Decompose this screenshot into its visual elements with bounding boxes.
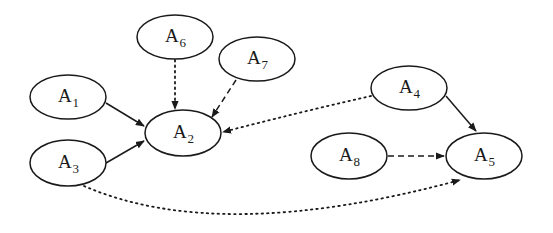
node-label-base: A — [173, 121, 187, 142]
node-label-subscript: 4 — [414, 86, 421, 101]
node-label-base: A — [58, 85, 72, 106]
node-a2: A2 — [145, 110, 221, 156]
node-label-subscript: 5 — [489, 154, 496, 169]
node-label-base: A — [58, 151, 72, 172]
edge-a4-to-a5 — [446, 96, 476, 131]
node-a1: A1 — [30, 75, 106, 119]
edge-a3-to-a2 — [106, 141, 144, 163]
node-label-subscript: 7 — [262, 57, 269, 72]
node-label-subscript: 3 — [73, 161, 80, 176]
edge-a1-to-a2 — [106, 103, 144, 126]
edge-a3-to-a5 — [84, 180, 460, 214]
edge-a7-to-a2 — [212, 80, 236, 117]
node-label-subscript: 2 — [188, 131, 195, 146]
directed-graph-diagram: A1A2A3A4A5A6A7A8 — [0, 0, 553, 233]
node-label-base: A — [165, 25, 179, 46]
node-a8: A8 — [311, 133, 387, 179]
node-label-base: A — [247, 47, 261, 68]
node-a6: A6 — [137, 15, 213, 59]
node-label-subscript: 1 — [73, 95, 80, 110]
node-label-base: A — [339, 144, 353, 165]
node-label-base: A — [474, 144, 488, 165]
edge-a4-to-a2 — [223, 96, 371, 132]
node-label-subscript: 8 — [354, 154, 361, 169]
node-label-base: A — [399, 76, 413, 97]
nodes-layer: A1A2A3A4A5A6A7A8 — [30, 15, 522, 186]
node-a5: A5 — [446, 133, 522, 179]
node-a4: A4 — [371, 66, 447, 110]
node-a3: A3 — [30, 140, 106, 186]
node-a7: A7 — [219, 37, 295, 81]
node-label-subscript: 6 — [180, 35, 187, 50]
